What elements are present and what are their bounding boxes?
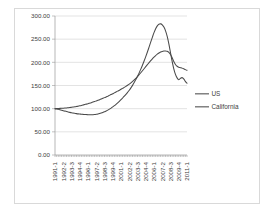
series-line-california bbox=[55, 24, 187, 115]
y-tick-label: 250.00 bbox=[31, 35, 50, 42]
x-tick-label: 2008-3 bbox=[167, 161, 174, 181]
chart-legend: USCalifornia bbox=[195, 90, 239, 110]
x-tick-label: 1993-3 bbox=[68, 161, 75, 181]
y-tick-marks-group bbox=[52, 16, 55, 155]
legend-label-california: California bbox=[212, 103, 239, 110]
x-tick-label: 2001-1 bbox=[117, 161, 124, 181]
x-tick-label: 2011-1 bbox=[183, 161, 190, 180]
x-tick-label: 2003-3 bbox=[134, 161, 141, 181]
x-tick-label: 2004-4 bbox=[142, 161, 149, 181]
x-tick-label: 2006-1 bbox=[150, 161, 157, 181]
x-axis-tick-labels: 1991-11992-21993-31994-41996-11997-21998… bbox=[51, 161, 190, 181]
data-series-group bbox=[55, 24, 187, 115]
y-tick-label: 50.00 bbox=[35, 128, 51, 135]
y-tick-label: 300.00 bbox=[31, 12, 50, 19]
y-tick-label: 0.00 bbox=[38, 151, 51, 158]
x-tick-label: 1997-2 bbox=[93, 161, 100, 181]
x-tick-label: 2002-2 bbox=[126, 161, 133, 181]
x-tick-label: 2007-2 bbox=[159, 161, 166, 181]
x-tick-label: 1996-1 bbox=[84, 161, 91, 181]
legend-label-us: US bbox=[212, 90, 221, 97]
chart-container: 0.0050.00100.00150.00200.00250.00300.00 … bbox=[14, 8, 260, 204]
x-tick-marks-group bbox=[55, 155, 187, 157]
x-tick-label: 1999-4 bbox=[109, 161, 116, 181]
y-axis-tick-labels: 0.0050.00100.00150.00200.00250.00300.00 bbox=[31, 12, 50, 158]
y-tick-label: 100.00 bbox=[31, 105, 50, 112]
x-tick-label: 2009-4 bbox=[175, 161, 182, 181]
y-tick-label: 200.00 bbox=[31, 59, 50, 66]
x-tick-label: 1994-4 bbox=[76, 161, 83, 181]
line-chart: 0.0050.00100.00150.00200.00250.00300.00 … bbox=[15, 9, 259, 203]
x-tick-label: 1998-3 bbox=[101, 161, 108, 181]
x-tick-label: 1991-1 bbox=[51, 161, 58, 181]
x-tick-label: 1992-2 bbox=[60, 161, 67, 181]
y-tick-label: 150.00 bbox=[31, 82, 50, 89]
